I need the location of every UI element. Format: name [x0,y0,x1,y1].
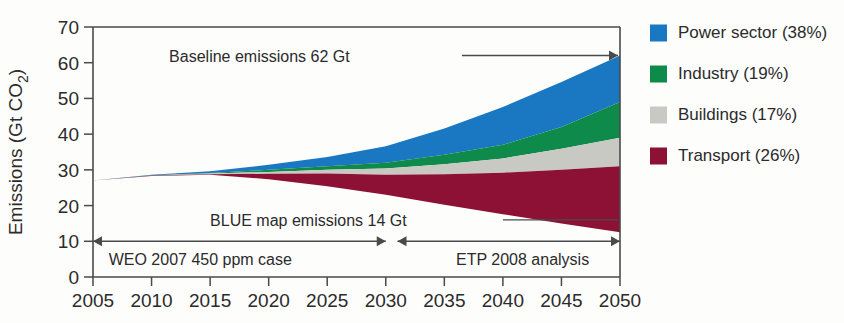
y-tick-label-30: 30 [58,160,79,181]
annotation-weo-case: WEO 2007 450 ppm case [109,251,292,268]
y-axis-title-subscript: 2 [15,75,31,83]
y-tick-label-70: 70 [58,17,79,38]
legend-label-industry: Industry (19%) [678,64,789,83]
legend-swatch-industry [650,66,667,83]
legend: Power sector (38%)Industry (19%)Building… [650,23,827,165]
y-axis-ticks: 010203040506070 [58,17,93,288]
y-tick-label-20: 20 [58,196,79,217]
x-tick-label-2005: 2005 [72,290,114,311]
chart-root: 010203040506070 200520102015202020252030… [0,0,844,323]
svg-text:Emissions (Gt CO2): Emissions (Gt CO2) [5,69,31,235]
legend-swatch-transport [650,148,667,165]
y-tick-label-50: 50 [58,88,79,109]
annotation-baseline-emissions: Baseline emissions 62 Gt [169,48,350,65]
x-tick-label-2045: 2045 [540,290,582,311]
annotation-etp-analysis: ETP 2008 analysis [456,251,589,268]
x-tick-label-2025: 2025 [306,290,348,311]
y-tick-label-40: 40 [58,124,79,145]
x-tick-label-2015: 2015 [189,290,231,311]
y-tick-label-60: 60 [58,53,79,74]
x-tick-label-2040: 2040 [482,290,524,311]
x-tick-label-2020: 2020 [248,290,290,311]
y-tick-label-10: 10 [58,231,79,252]
emissions-stacked-area-chart: 010203040506070 200520102015202020252030… [0,0,844,323]
legend-label-transport: Transport (26%) [678,146,800,165]
span-arrow-head-left-etp-span [397,236,406,246]
legend-label-buildings: Buildings (17%) [678,105,797,124]
legend-swatch-power-sector [650,25,667,42]
y-axis-title: Emissions (Gt CO2) [5,69,31,235]
y-axis-title-close: ) [5,69,26,75]
x-tick-label-2035: 2035 [423,290,465,311]
legend-swatch-buildings [650,107,667,124]
y-axis-title-main: Emissions (Gt CO [5,83,26,235]
plot-bands [93,56,620,233]
legend-label-power: Power sector (38%) [678,23,827,42]
x-tick-label-2030: 2030 [365,290,407,311]
span-arrow-head-left-weo-span [93,236,102,246]
x-tick-label-2050: 2050 [599,290,641,311]
x-axis-ticks: 2005201020152020202520302035204020452050 [72,277,641,311]
x-tick-label-2010: 2010 [130,290,172,311]
y-tick-label-0: 0 [68,267,79,288]
span-arrow-head-right-etp-span [611,236,620,246]
span-arrow-head-right-weo-span [377,236,386,246]
annotation-blue-map-emissions: BLUE map emissions 14 Gt [210,212,407,229]
